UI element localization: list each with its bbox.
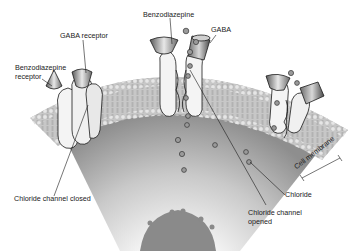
gaba-receptor-diagram — [0, 0, 356, 251]
label-gaba-receptor: GABA receptor — [60, 32, 108, 41]
label-benzodiazepine-receptor-line2: receptor — [15, 73, 66, 82]
benzodiazepine-molecule-cone — [150, 37, 178, 54]
label-chloride-channel-opened: Chloride channel opened — [248, 209, 302, 226]
label-benzodiazepine: Benzodiazepine — [143, 11, 194, 20]
label-chloride-channel-closed: Chloride channel closed — [14, 195, 91, 204]
label-gaba: GABA — [211, 26, 231, 35]
label-chloride-channel-opened-line2: opened — [248, 218, 302, 227]
label-chloride: Chloride — [285, 191, 312, 200]
label-benzodiazepine-receptor: Benzodiazepine receptor — [15, 64, 66, 81]
